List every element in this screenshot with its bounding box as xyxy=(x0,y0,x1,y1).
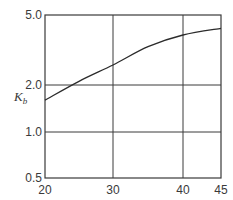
x-tick-label: 30 xyxy=(106,183,120,197)
y-tick-label: 1.0 xyxy=(25,125,42,139)
chart: 20304045 0.51.02.05.0 Kb xyxy=(0,0,233,200)
y-tick-label: 5.0 xyxy=(25,8,42,22)
chart-background xyxy=(0,0,233,200)
x-tick-label: 45 xyxy=(214,183,228,197)
y-tick-label: 0.5 xyxy=(25,171,42,185)
x-tick-label: 20 xyxy=(38,183,52,197)
y-axis-label-subscript: b xyxy=(23,96,28,106)
x-tick-label: 40 xyxy=(176,183,190,197)
y-tick-label: 2.0 xyxy=(25,78,42,92)
